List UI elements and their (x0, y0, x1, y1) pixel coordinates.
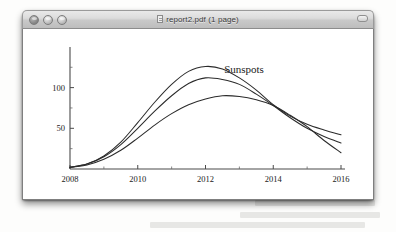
window-title: report2.pdf (1 page) (166, 15, 239, 24)
sunspots-chart: 2008201020122014201650100 Sunspots (23, 29, 373, 198)
pdf-page-canvas[interactable]: 2008201020122014201650100 Sunspots (22, 29, 374, 200)
chart-annotation: Sunspots (224, 63, 264, 75)
window-title-group: report2.pdf (1 page) (23, 15, 373, 24)
window-titlebar[interactable]: report2.pdf (1 page) (22, 10, 374, 29)
x-tick-label: 2014 (265, 174, 283, 184)
y-tick-label: 50 (57, 123, 66, 133)
chart-curves (70, 66, 341, 167)
y-tick-label: 100 (52, 83, 65, 93)
x-tick-label: 2008 (62, 174, 79, 184)
pdf-viewer-window: report2.pdf (1 page) 2008201020122014201… (22, 10, 374, 200)
x-tick-label: 2016 (333, 174, 350, 184)
x-tick-label: 2010 (129, 174, 146, 184)
x-tick-label: 2012 (197, 174, 214, 184)
curve-lower (70, 96, 341, 168)
document-icon[interactable] (157, 15, 163, 23)
background-artifact (150, 222, 365, 228)
background-artifact (240, 212, 380, 218)
chart-annotations: Sunspots (224, 63, 264, 75)
toolbar-toggle-button[interactable] (357, 15, 368, 22)
background-artifact (255, 200, 375, 206)
